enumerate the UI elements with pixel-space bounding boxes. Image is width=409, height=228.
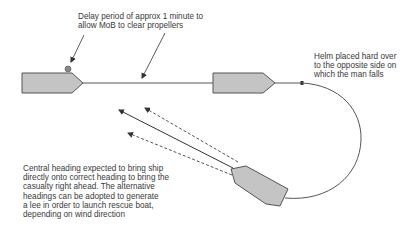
helm-annotation: Helm placed hard over to the opposite si… <box>314 52 409 80</box>
central-annotation-line: casualty right ahead. The alternative <box>23 182 173 191</box>
man-overboard-marker <box>65 66 71 72</box>
delay-pointer-arrow-to-track <box>142 33 165 78</box>
central-annotation-line: directly onto correct heading to bring t… <box>23 173 173 182</box>
central-heading-annotation: Central heading expected to bring ship d… <box>23 164 173 219</box>
ship-initial-position <box>22 73 83 93</box>
helm-annotation-line: to the opposite side on <box>314 61 409 70</box>
ship-after-delay <box>213 73 275 93</box>
delay-annotation-line: allow MoB to clear propellers <box>78 21 208 30</box>
helm-annotation-line: Helm placed hard over <box>314 52 409 61</box>
helm-annotation-line: which the man falls <box>314 70 409 79</box>
central-heading-arrow <box>119 110 233 168</box>
ship-after-turn <box>231 166 288 206</box>
turning-circle-arc <box>285 83 361 198</box>
central-annotation-line: a lee in order to launch rescue boat, <box>23 201 173 210</box>
alternative-heading-arrow-upper <box>145 108 238 162</box>
delay-annotation-line: Delay period of approx 1 minute to <box>78 12 208 21</box>
central-annotation-line: Central heading expected to bring ship <box>23 164 173 173</box>
central-annotation-line: headings can be adopted to generate <box>23 192 173 201</box>
delay-pointer-arrow-to-mob <box>71 35 84 62</box>
central-annotation-line: depending on wind direction <box>23 210 173 219</box>
delay-annotation: Delay period of approx 1 minute to allow… <box>78 12 208 30</box>
